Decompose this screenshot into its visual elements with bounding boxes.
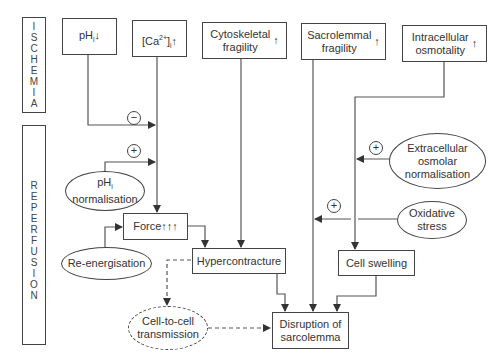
reperfusion-phase-label: R E P E R F U S I O N <box>22 125 46 345</box>
letter: M <box>30 76 38 87</box>
ph-normalisation-ellipse: pHi normalisation <box>65 171 145 211</box>
cell-swelling-label: Cell swelling <box>346 257 407 270</box>
increase-arrow-icon: ↑ <box>472 37 478 50</box>
re-energisation-ellipse: Re-energisation <box>61 247 152 280</box>
cell-swelling-box: Cell swelling <box>338 250 415 276</box>
plus-sign-icon: + <box>327 199 341 213</box>
letter: R <box>30 180 37 191</box>
letter: P <box>31 202 38 213</box>
increase-arrow-icon: ↑ <box>273 34 279 47</box>
oxidative-stress-ellipse: Oxidative stress <box>397 201 467 239</box>
extracellular-osmolar-normalisation-ellipse: Extracellular osmolar normalisation <box>389 133 486 189</box>
oxidative-label: Oxidative stress <box>409 207 455 233</box>
cell-to-cell-transmission-ellipse: Cell-to-cell transmission <box>128 306 208 350</box>
intracellular-osmolality-box: Intracellular osmotality ↑ <box>402 25 487 62</box>
letter: E <box>31 65 38 76</box>
cell-to-cell-label: Cell-to-cell transmission <box>137 315 199 341</box>
letter: U <box>30 246 37 257</box>
letter: C <box>30 43 37 54</box>
letter: R <box>30 224 37 235</box>
calcium-label: [Ca2+]i↑ <box>142 31 177 52</box>
ph-label: pHi <box>97 176 113 193</box>
intracellular-label: Intracellular osmotality <box>412 31 469 57</box>
normalisation-label: normalisation <box>72 193 137 206</box>
cytoskeletal-fragility-box: Cytoskeletal fragility ↑ <box>202 22 287 59</box>
letter: E <box>31 213 38 224</box>
sacrolemmal-fragility-box: Sacrolemmal fragility ↑ <box>301 23 386 60</box>
re-energisation-label: Re-energisation <box>68 257 146 270</box>
plus-sign-icon: + <box>369 141 383 155</box>
cytoskeletal-label: Cytoskeletal fragility <box>210 28 270 54</box>
letter: E <box>31 191 38 202</box>
ph-label: pHi↓ <box>79 29 100 46</box>
letter: I <box>33 21 36 32</box>
letter: S <box>31 32 38 43</box>
hypercontracture-box: Hypercontracture <box>192 248 286 274</box>
letter: I <box>33 268 36 279</box>
plus-sign-icon: + <box>127 144 141 158</box>
letter: H <box>30 54 37 65</box>
minus-sign-icon: − <box>127 111 141 125</box>
disruption-label: Disruption of sarcolemma <box>280 318 342 344</box>
ischemia-phase-label: I S C H E M I A <box>22 17 46 113</box>
force-box: Force↑↑↑ <box>123 213 188 240</box>
letter: S <box>31 257 38 268</box>
letter: O <box>30 279 38 290</box>
letter: A <box>31 98 38 109</box>
calcium-increase-box: [Ca2+]i↑ <box>132 20 187 57</box>
ph-decrease-box: pHi↓ <box>62 18 117 55</box>
letter: I <box>33 87 36 98</box>
increase-arrow-icon: ↑ <box>374 35 380 48</box>
sacrolemmal-label: Sacrolemmal fragility <box>307 29 371 55</box>
extracellular-label: Extracellular osmolar normalisation <box>405 142 470 181</box>
hypercontracture-label: Hypercontracture <box>197 255 281 268</box>
letter: N <box>30 290 37 301</box>
force-label: Force↑↑↑ <box>133 220 178 233</box>
disruption-of-sarcolemma-box: Disruption of sarcolemma <box>272 312 349 349</box>
letter: F <box>31 235 37 246</box>
